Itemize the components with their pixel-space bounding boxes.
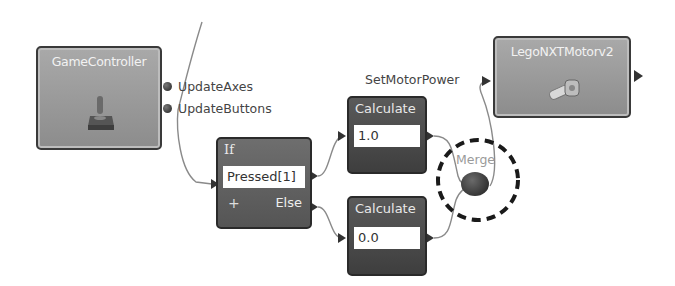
game-controller-activity[interactable]: GameController	[36, 46, 162, 150]
update-axes-port[interactable]	[163, 82, 172, 91]
add-condition-button[interactable]: +	[228, 195, 240, 211]
update-buttons-port[interactable]	[163, 104, 172, 113]
calculate-block-top[interactable]: Calculate 1.0	[347, 96, 427, 174]
lego-motor-activity[interactable]: LegoNXTMotorv2	[493, 36, 631, 118]
set-motor-power-label: SetMotorPower	[365, 72, 459, 87]
joystick-icon	[86, 92, 116, 132]
lego-motor-title: LegoNXTMotorv2	[495, 44, 629, 59]
calculate-bottom-title: Calculate	[355, 201, 416, 216]
game-controller-title: GameController	[38, 54, 160, 69]
motor-icon	[545, 76, 585, 104]
diagram-canvas: GameController UpdateAxes UpdateButtons …	[0, 0, 675, 286]
merge-label: Merge	[456, 152, 495, 167]
calculate-top-title: Calculate	[355, 101, 416, 116]
if-condition-input[interactable]: Pressed[1]	[223, 166, 305, 188]
calculate-bottom-input[interactable]: 0.0	[354, 227, 420, 249]
calculate-top-input[interactable]: 1.0	[354, 125, 420, 147]
update-buttons-label: UpdateButtons	[178, 101, 272, 116]
merge-node[interactable]	[461, 172, 489, 196]
calculate-block-bottom[interactable]: Calculate 0.0	[347, 196, 427, 276]
if-title: If	[224, 142, 234, 157]
update-axes-label: UpdateAxes	[178, 79, 253, 94]
if-block[interactable]: If Pressed[1] + Else	[216, 137, 312, 229]
else-label: Else	[275, 195, 302, 210]
